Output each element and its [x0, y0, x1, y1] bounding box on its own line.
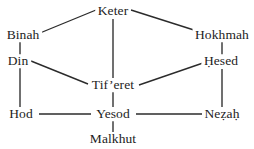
sefirot-tree-diagram: KeterBinahHokhmahDinḤesedTif’eretHodYeso… — [0, 0, 254, 149]
node-label-nezah[interactable]: Neẓaḥ — [202, 107, 242, 121]
diagram-edge-layer — [0, 0, 254, 149]
node-label-hesed[interactable]: Ḥesed — [201, 54, 240, 68]
edge-binah-keter — [40, 10, 96, 33]
node-label-din[interactable]: Din — [5, 54, 31, 68]
edge-keter-hokhmah — [131, 10, 197, 31]
edge-din-tiferet — [31, 61, 88, 84]
node-label-tiferet[interactable]: Tif’eret — [89, 78, 136, 92]
edge-tiferet-hesed — [139, 63, 203, 85]
node-label-hod[interactable]: Hod — [7, 107, 36, 121]
node-label-malkhut[interactable]: Malkhut — [87, 132, 138, 146]
node-label-yesod[interactable]: Yesod — [94, 107, 133, 121]
node-label-keter[interactable]: Keter — [95, 4, 130, 18]
node-label-binah[interactable]: Binah — [4, 28, 42, 42]
node-label-hokhmah[interactable]: Hokhmah — [193, 28, 252, 42]
